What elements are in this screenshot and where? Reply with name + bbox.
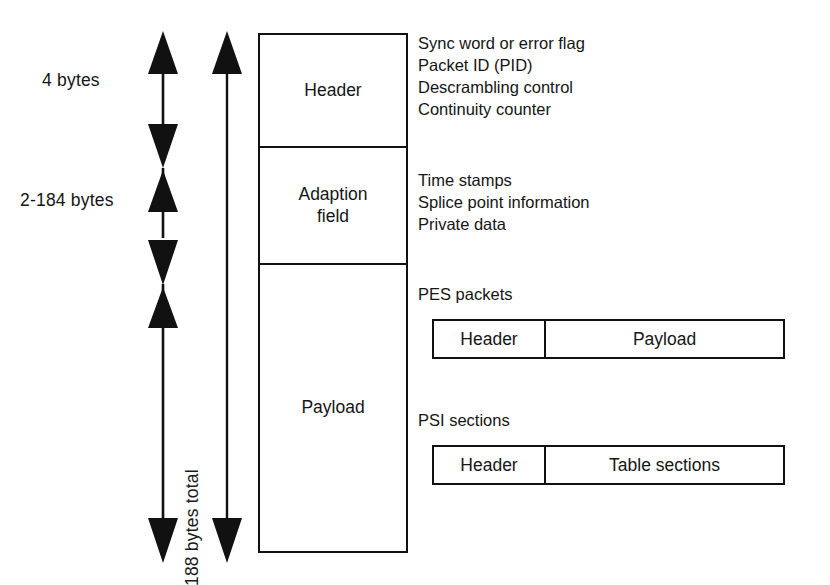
header-content-item: Packet ID (PID) (418, 55, 585, 77)
arrowhead-down-header-bottom (148, 124, 178, 168)
packet-cell-header: Header (260, 35, 406, 148)
header-contents-list: Sync word or error flag Packet ID (PID) … (418, 33, 585, 121)
arrowhead-up-adaption-top (148, 170, 178, 212)
arrowhead-down-bottom-total (212, 518, 242, 563)
psi-table-sections-cell: Table sections (546, 447, 783, 483)
header-content-item: Descrambling control (418, 77, 585, 99)
adaption-content-item: Time stamps (418, 170, 590, 192)
packet-cell-payload: Payload (260, 265, 406, 550)
arrowhead-up-payload-top (148, 287, 178, 328)
psi-section-box: Header Table sections (432, 445, 785, 485)
arrowhead-down-adaption-bottom (148, 240, 178, 285)
dimension-label-total-size: 188 bytes total (182, 386, 203, 585)
adaption-content-item: Splice point information (418, 192, 590, 214)
dimension-label-header-size: 4 bytes (42, 70, 100, 91)
arrowhead-up-top-total (212, 31, 242, 74)
header-content-item: Continuity counter (418, 99, 585, 121)
pes-packets-title: PES packets (418, 285, 512, 304)
arrowhead-up-top-left (148, 31, 178, 74)
pes-header-cell: Header (434, 321, 546, 357)
arrowhead-down-bottom-left (148, 518, 178, 563)
dimension-label-adaption-size: 2-184 bytes (20, 190, 114, 211)
psi-sections-title: PSI sections (418, 411, 510, 430)
packet-cell-adaption-field: Adaption field (260, 148, 406, 265)
packet-column: Header Adaption field Payload (258, 33, 408, 553)
adaption-content-item: Private data (418, 214, 590, 236)
pes-payload-cell: Payload (546, 321, 783, 357)
dimension-arrows (0, 0, 830, 585)
pes-packet-box: Header Payload (432, 319, 785, 359)
header-content-item: Sync word or error flag (418, 33, 585, 55)
psi-header-cell: Header (434, 447, 546, 483)
adaption-contents-list: Time stamps Splice point information Pri… (418, 170, 590, 236)
transport-packet-diagram: 4 bytes 2-184 bytes 188 bytes total Head… (0, 0, 830, 585)
